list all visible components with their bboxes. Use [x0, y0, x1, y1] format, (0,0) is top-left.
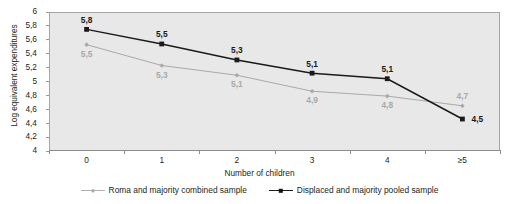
y-axis-tick-mark — [46, 137, 50, 138]
series-line-1 — [87, 29, 463, 119]
x-axis-tick-mark — [275, 150, 276, 154]
y-axis-tick-mark — [46, 25, 50, 26]
data-point-label: 5,5 — [156, 30, 168, 38]
y-axis-tick-label: 4 — [1, 146, 37, 154]
data-point-label: 5,3 — [231, 46, 243, 54]
diamond-marker-icon — [84, 42, 89, 47]
data-point-label: 5,1 — [231, 80, 243, 88]
x-axis-tick-mark — [49, 150, 50, 154]
y-axis-tick-mark — [46, 95, 50, 96]
diamond-marker-icon — [90, 188, 95, 193]
data-point-label: 5,5 — [81, 50, 93, 58]
square-marker-icon — [310, 70, 315, 75]
line-chart-figure: Log equivalent expenditures 65,85,65,45,… — [0, 0, 519, 204]
series-line-0 — [87, 44, 463, 105]
x-axis-tick-label: 0 — [84, 156, 89, 164]
y-axis-tick-mark — [46, 123, 50, 124]
y-axis-tick-label: 5,4 — [1, 49, 37, 57]
y-axis-tick-label: 4,2 — [1, 132, 37, 140]
data-point-label: 4,8 — [381, 101, 393, 109]
data-point-label: 4,5 — [472, 115, 484, 123]
y-axis-tick-label: 5 — [1, 77, 37, 85]
y-axis-tick-label: 6 — [1, 7, 37, 15]
x-axis-tick-label: 2 — [235, 156, 240, 164]
y-axis-tick-label: 4,6 — [1, 105, 37, 113]
x-axis-tick-mark — [350, 150, 351, 154]
square-marker-icon — [279, 188, 283, 192]
y-axis-tick-label: 5,2 — [1, 63, 37, 71]
legend-label-roma-majority: Roma and majority combined sample — [109, 186, 247, 195]
diamond-marker-icon — [235, 72, 240, 77]
diamond-marker-icon — [385, 93, 390, 98]
legend-item-displaced-majority[interactable]: Displaced and majority pooled sample — [269, 186, 439, 195]
data-point-label: 5,1 — [381, 65, 393, 73]
legend-label-displaced-majority: Displaced and majority pooled sample — [297, 186, 439, 195]
y-axis-tick-label: 5,6 — [1, 35, 37, 43]
x-axis-tick-label: ≥5 — [458, 156, 467, 164]
data-point-label: 5,1 — [306, 60, 318, 68]
legend-item-roma-majority[interactable]: Roma and majority combined sample — [81, 186, 247, 195]
y-axis-tick-mark — [46, 67, 50, 68]
y-axis-tick-mark — [46, 12, 50, 13]
diamond-marker-icon — [159, 63, 164, 68]
data-point-label: 4,9 — [306, 96, 318, 104]
x-axis-title: Number of children — [0, 169, 519, 178]
x-axis-tick-mark — [425, 150, 426, 154]
x-axis-tick-mark — [124, 150, 125, 154]
y-axis-tick-label: 4,4 — [1, 119, 37, 127]
y-axis-tick-mark — [46, 151, 50, 152]
data-point-label: 4,7 — [457, 92, 469, 100]
chart-legend: Roma and majority combined sample Displa… — [0, 186, 519, 195]
square-marker-icon — [84, 26, 89, 31]
legend-swatch-light — [81, 186, 105, 195]
square-marker-icon — [159, 41, 164, 46]
square-marker-icon — [235, 57, 240, 62]
y-axis-tick-label: 4,8 — [1, 91, 37, 99]
x-axis-tick-mark — [500, 150, 501, 154]
square-marker-icon — [385, 76, 390, 81]
diamond-marker-icon — [460, 103, 465, 108]
data-point-label: 5,3 — [156, 71, 168, 79]
y-axis-tick-mark — [46, 39, 50, 40]
x-axis-tick-label: 3 — [310, 156, 315, 164]
diamond-marker-icon — [310, 88, 315, 93]
y-axis-tick-mark — [46, 81, 50, 82]
y-axis-tick-label: 5,8 — [1, 21, 37, 29]
x-axis-tick-label: 4 — [385, 156, 390, 164]
y-axis-tick-mark — [46, 109, 50, 110]
y-axis-tick-mark — [46, 53, 50, 54]
legend-swatch-dark — [269, 186, 293, 195]
x-axis-tick-mark — [199, 150, 200, 154]
x-axis-tick-label: 1 — [159, 156, 164, 164]
square-marker-icon — [460, 116, 465, 121]
data-point-label: 5,8 — [81, 16, 93, 24]
plot-series-canvas — [49, 12, 500, 151]
